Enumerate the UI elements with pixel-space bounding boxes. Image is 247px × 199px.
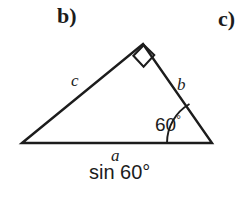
- angle-label-60: 60°: [155, 114, 181, 134]
- degree-symbol: °: [176, 113, 181, 127]
- side-label-b: b: [177, 76, 186, 93]
- angle-value: 60: [155, 114, 176, 135]
- figure-canvas: b) c) c b a 60° sin 60°: [0, 0, 247, 199]
- base-expression: sin 60°: [89, 162, 150, 182]
- side-label-c: c: [71, 72, 79, 89]
